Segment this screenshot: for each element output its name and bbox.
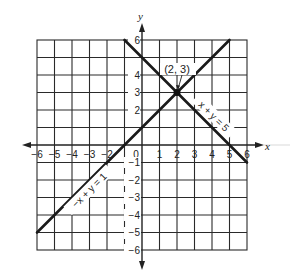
y-tick: −5 [129,227,141,238]
y-tick: −1 [129,157,141,168]
intersection-point [174,89,181,96]
x-tick: 3 [192,149,198,160]
line-x-plus-y-equals-5 [125,40,248,163]
x-tick: 1 [157,149,163,160]
coordinate-graph: x y −6 −5 −4 −3 −2 0 1 2 3 4 5 6 6 4 3 2… [0,0,290,280]
y-tick: 3 [134,87,140,98]
y-tick: 6 [134,35,140,46]
y-tick: −3 [129,192,141,203]
x-tick: −5 [49,149,61,160]
y-tick: 4 [134,70,140,81]
arrow-down-icon [139,261,145,270]
y-tick: −6 [129,245,141,256]
x-tick: 2 [174,149,180,160]
y-tick: −2 [129,175,141,186]
y-axis-label: y [137,10,143,22]
arrow-right-icon [255,142,264,148]
y-tick: 2 [134,105,140,116]
x-tick: 4 [209,149,215,160]
arrow-up-icon [139,23,145,32]
x-axis-label: x [264,140,270,152]
x-tick: 5 [227,149,233,160]
y-tick: −4 [129,210,141,221]
x-tick: 6 [244,149,250,160]
x-tick: −3 [84,149,96,160]
intersection-label: (2, 3) [164,63,190,75]
x-tick: −6 [31,149,43,160]
arrow-left-icon [22,142,31,148]
x-tick: −4 [66,149,78,160]
